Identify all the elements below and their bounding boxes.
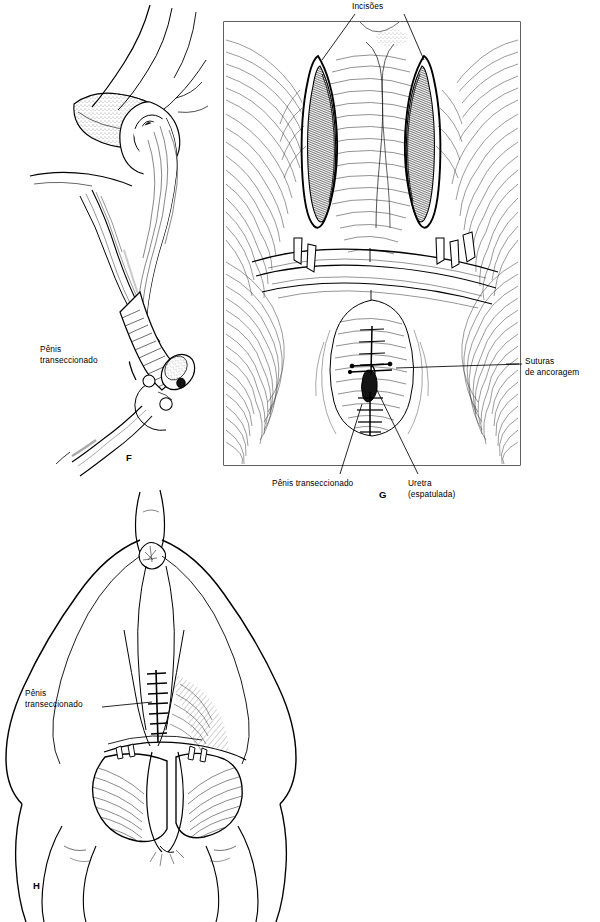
label-line-1: Uretra — [408, 478, 432, 488]
surgical-figure: Incisões Pênistranseccionado Suturasde a… — [0, 0, 600, 922]
illustration-artwork — [0, 0, 600, 922]
label-penis-transeccionado-h: Pênistranseccionado — [25, 688, 83, 710]
leader-penis-h — [102, 702, 152, 707]
label-uretra-espatulada: Uretra(espatulada) — [408, 478, 455, 500]
suture-line-h — [147, 670, 168, 742]
label-line-1: Pênis — [40, 344, 61, 354]
label-suturas-de-ancoragem: Suturasde ancoragem — [525, 356, 579, 378]
label-line-2: (espatulada) — [408, 489, 455, 499]
scrotum-left — [93, 754, 167, 842]
label-line-1: Pênis — [25, 688, 46, 698]
label-line-2: transeccionado — [25, 699, 83, 709]
panel-letter-g: G — [379, 489, 386, 500]
label-line-2: transeccionado — [40, 355, 98, 365]
panel-f-artwork — [30, 5, 208, 476]
panel-g-artwork — [224, 14, 520, 465]
panel-letter-f: F — [126, 452, 132, 463]
label-line-2: de ancoragem — [525, 367, 579, 377]
label-line-1: Suturas — [525, 356, 554, 366]
panel-letter-h: H — [33, 880, 40, 891]
label-penis-transeccionado-f: Pênistranseccionado — [40, 344, 98, 366]
label-penis-transeccionado-g: Pênis transeccionado — [272, 478, 353, 489]
label-incisoes: Incisões — [352, 1, 383, 12]
